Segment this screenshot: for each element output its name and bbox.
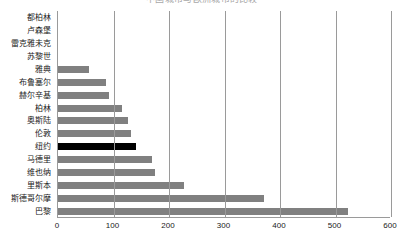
category-label: 里斯本: [0, 181, 51, 190]
category-label: 赫尔辛基: [0, 91, 51, 100]
category-label: 苏黎世: [0, 52, 51, 61]
bar-7: [58, 105, 122, 112]
category-label: 巴黎: [0, 207, 51, 216]
chart-title: 中国城市与欧洲城市的比较: [0, 0, 404, 4]
gridline-200: [169, 11, 170, 217]
gridline-500: [336, 11, 337, 217]
category-axis-labels: 都柏林卢森堡雷克雅未克苏黎世雅典布鲁塞尔赫尔辛基柏林奥斯陆伦敦纽约马德里维也纳里…: [0, 11, 54, 218]
x-tick-label: 500: [328, 221, 341, 231]
category-label: 都柏林: [0, 13, 51, 22]
x-tick-label: 600: [383, 221, 396, 231]
category-label: 雷克雅未克: [0, 39, 51, 48]
bar-15: [58, 208, 348, 215]
category-label: 雅典: [0, 65, 51, 74]
gridline-400: [280, 11, 281, 217]
category-label: 马德里: [0, 155, 51, 164]
category-label: 伦敦: [0, 129, 51, 138]
category-label: 布鲁塞尔: [0, 78, 51, 87]
category-label: 卢森堡: [0, 26, 51, 35]
bar-chart: 中国城市与欧洲城市的比较 都柏林卢森堡雷克雅未克苏黎世雅典布鲁塞尔赫尔辛基柏林奥…: [0, 0, 404, 241]
bar-10: [58, 143, 136, 150]
gridline-300: [225, 11, 226, 217]
bar-14: [58, 195, 264, 202]
bar-11: [58, 156, 152, 163]
bar-12: [58, 169, 155, 176]
category-label: 纽约: [0, 142, 51, 151]
x-tick-label: 200: [161, 221, 174, 231]
bar-5: [58, 79, 106, 86]
category-label: 维也纳: [0, 168, 51, 177]
bar-13: [58, 182, 184, 189]
bar-6: [58, 92, 109, 99]
gridline-600: [391, 11, 392, 217]
x-tick-label: 100: [106, 221, 119, 231]
x-tick-label: 300: [217, 221, 230, 231]
value-axis-labels: 0100200300400500600: [57, 221, 390, 235]
x-tick-label: 400: [272, 221, 285, 231]
plot-area: [57, 11, 390, 218]
gridline-100: [114, 11, 115, 217]
bar-9: [58, 130, 131, 137]
category-label: 柏林: [0, 104, 51, 113]
category-label: 奥斯陆: [0, 116, 51, 125]
category-label: 斯德哥尔摩: [0, 194, 51, 203]
bar-8: [58, 117, 128, 124]
bar-4: [58, 66, 89, 73]
x-tick-label: 0: [55, 221, 59, 231]
